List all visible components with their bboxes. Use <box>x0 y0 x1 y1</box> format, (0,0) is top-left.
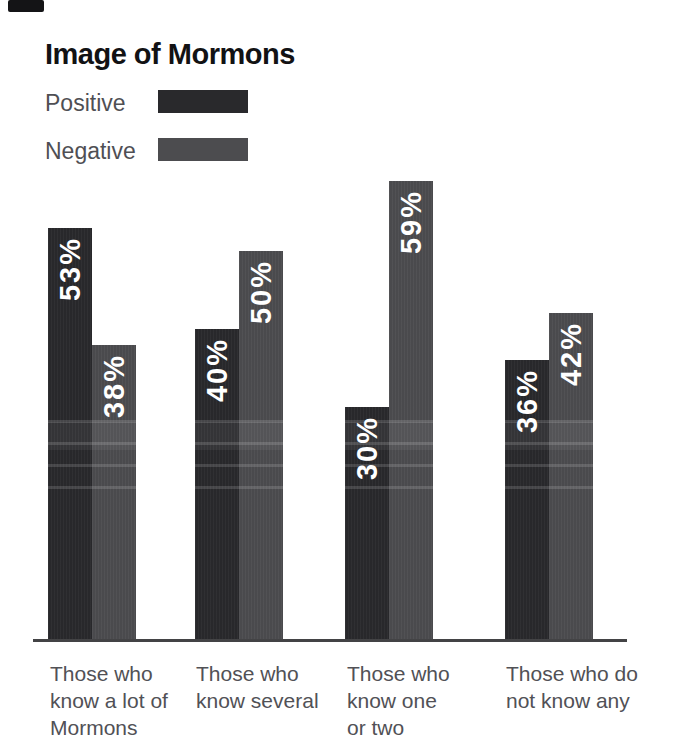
bar-value-label: 42% <box>557 322 586 386</box>
bar-negative: 59% <box>389 181 433 641</box>
category-label: Those whoknow oneor two <box>347 660 450 741</box>
bar-positive: 53% <box>48 228 92 641</box>
category-label-line: or two <box>347 714 450 741</box>
plot-area: 53%38%40%50%30%59%36%42% <box>0 0 679 642</box>
category-label-line: not know any <box>506 687 638 714</box>
bar-group: 30%59% <box>345 181 433 641</box>
bar-positive: 36% <box>505 360 549 641</box>
bar-positive: 30% <box>345 407 389 641</box>
category-label-line: Those who <box>50 660 168 687</box>
bar-group: 40%50% <box>195 251 283 641</box>
category-label: Those who donot know any <box>506 660 638 714</box>
bar-value-label: 36% <box>513 369 542 433</box>
bar-negative: 42% <box>549 313 593 641</box>
bar-positive: 40% <box>195 329 239 641</box>
bar-group: 36%42% <box>505 313 593 641</box>
bar-group: 53%38% <box>48 228 136 641</box>
category-label-line: Those who <box>347 660 450 687</box>
x-axis-line <box>33 639 627 642</box>
bar-value-label: 50% <box>247 260 276 324</box>
chart-page: Image of Mormons Positive Negative 53%38… <box>0 0 679 752</box>
category-label-line: Those who <box>196 660 319 687</box>
bars-container: 53%38%40%50%30%59%36%42% <box>0 0 679 641</box>
category-label: Those whoknow a lot ofMormons <box>50 660 168 741</box>
category-label-line: know several <box>196 687 319 714</box>
category-label-line: Those who do <box>506 660 638 687</box>
bar-value-label: 38% <box>100 354 129 418</box>
bar-value-label: 53% <box>56 237 85 301</box>
bar-negative: 50% <box>239 251 283 641</box>
category-label-line: know a lot of <box>50 687 168 714</box>
bar-negative: 38% <box>92 345 136 641</box>
bar-value-label: 30% <box>353 416 382 480</box>
category-label-line: know one <box>347 687 450 714</box>
category-label: Those whoknow several <box>196 660 319 714</box>
category-label-line: Mormons <box>50 714 168 741</box>
bar-value-label: 40% <box>203 338 232 402</box>
bar-value-label: 59% <box>397 190 426 254</box>
